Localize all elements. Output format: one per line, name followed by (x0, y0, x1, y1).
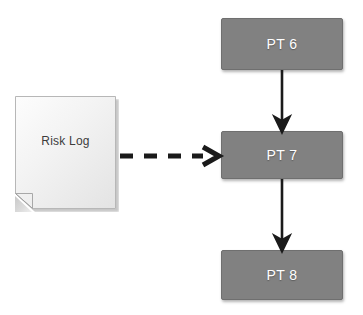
node-pt-8[interactable]: PT 8 (221, 250, 343, 300)
node-pt-6[interactable]: PT 6 (221, 18, 343, 70)
risk-log-body (15, 96, 116, 209)
risk-log-label: Risk Log (15, 134, 116, 148)
node-pt-7[interactable]: PT 7 (221, 131, 343, 179)
edge-risk-log-to-pt-7[interactable] (120, 147, 219, 165)
node-risk-log[interactable]: Risk Log (15, 96, 119, 212)
open-chevron-arrowhead-icon (203, 147, 219, 165)
diagram-canvas: Risk Log PT 6 PT 7 PT 8 (0, 0, 363, 315)
